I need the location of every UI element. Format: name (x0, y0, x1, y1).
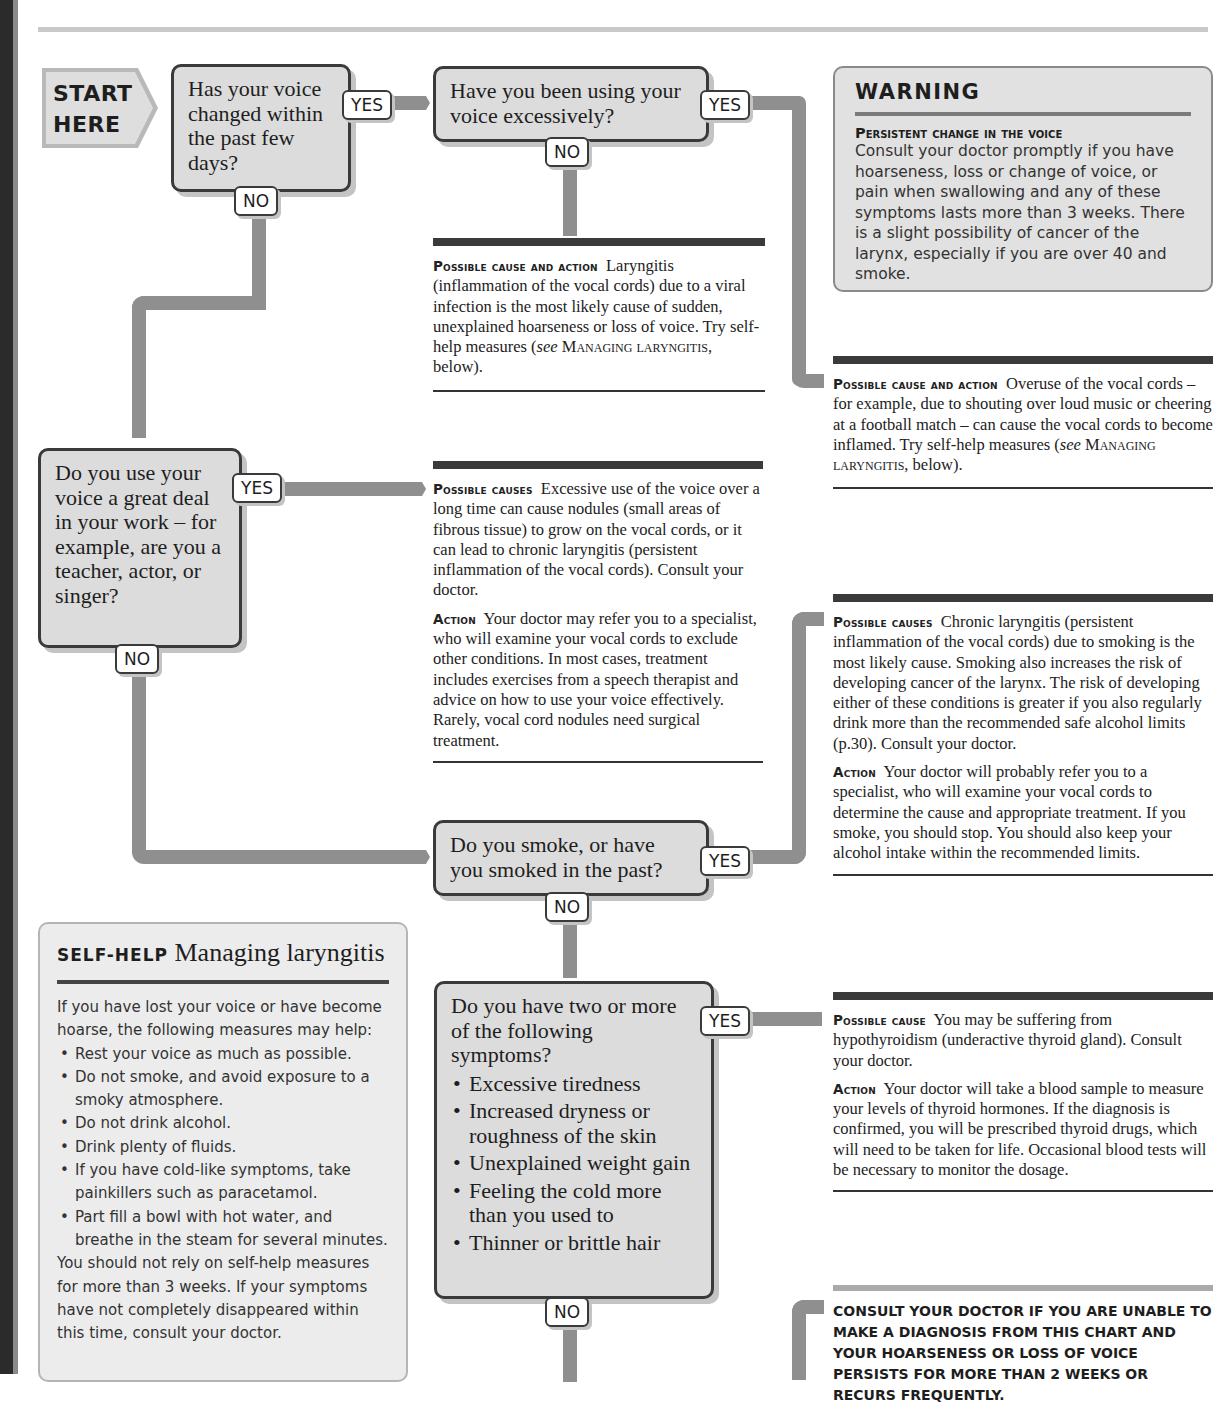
connector-q1-no (252, 212, 266, 308)
warning-divider (855, 112, 1191, 116)
result-label: Possible causes (433, 481, 533, 497)
warning-subtitle: Persistent change in the voice (855, 125, 1191, 141)
result-label: Possible cause (833, 1012, 926, 1028)
selfhelp-item: Do not drink alcohol. (75, 1112, 389, 1135)
result-label: Possible cause and action (433, 258, 598, 274)
question-q4: Do you smoke, or have you smoked in the … (433, 820, 709, 896)
symptom-item: •Feeling the cold more than you used to (469, 1179, 697, 1228)
connector-q2-no (563, 162, 577, 236)
q5-intro: Do you have two or more of the following… (451, 994, 697, 1068)
selfhelp-divider (57, 980, 389, 984)
result-r4: Possible causes Chronic laryngitis (pers… (833, 594, 1213, 876)
question-q3: Do you use your voice a great deal in yo… (38, 448, 242, 648)
action-label: Action (833, 764, 876, 780)
symptom-item: •Increased dryness or roughness of the s… (469, 1099, 697, 1148)
connector-q4-no (563, 918, 577, 978)
result-r3: Possible causes Excessive use of the voi… (433, 461, 763, 763)
page-binding-edge (0, 0, 13, 1374)
connector-q5-no (563, 1322, 577, 1382)
question-q5: Do you have two or more of the following… (434, 981, 714, 1299)
selfhelp-item: Rest your voice as much as possible. (75, 1043, 389, 1066)
selfhelp-item: Drink plenty of fluids. (75, 1136, 389, 1159)
start-here-marker: START HERE (38, 64, 162, 152)
result-r2: Possible cause and action Overuse of the… (833, 356, 1213, 489)
arrowhead-icon (418, 846, 430, 868)
result-label: Possible cause and action (833, 376, 998, 392)
selfhelp-item: Part fill a bowl with hot water, and bre… (75, 1206, 389, 1253)
no-button-q2[interactable]: NO (545, 137, 589, 167)
page-binding-shadow (13, 0, 18, 1374)
selfhelp-item: Do not smoke, and avoid exposure to a sm… (75, 1066, 389, 1113)
link-managing-laryngitis[interactable]: Managing laryngitis (562, 337, 708, 356)
action-label: Action (433, 611, 476, 627)
connector-q3-no (132, 670, 146, 862)
yes-button-q4[interactable]: YES (700, 846, 750, 876)
no-button-q1[interactable]: NO (234, 186, 278, 216)
result-label: Possible causes (833, 614, 933, 630)
arrowhead-icon (418, 92, 430, 114)
warning-box: WARNING Persistent change in the voice C… (833, 66, 1213, 292)
no-button-q4[interactable]: NO (545, 892, 589, 922)
question-q1: Has your voice changed within the past f… (171, 64, 351, 192)
final-advice: CONSULT YOUR DOCTOR IF YOU ARE UNABLE TO… (833, 1285, 1213, 1406)
connector-q5-yes (750, 1012, 822, 1026)
selfhelp-outro: You should not rely on self-help measure… (57, 1252, 389, 1345)
connector-q3-yes (280, 482, 420, 496)
result-r5: Possible cause You may be suffering from… (833, 992, 1213, 1192)
selfhelp-intro: If you have lost your voice or have beco… (57, 996, 389, 1043)
selfhelp-item: If you have cold-like symptoms, take pai… (75, 1159, 389, 1206)
arrowhead-icon (414, 478, 426, 500)
warning-title: WARNING (855, 80, 1191, 104)
symptom-item: •Excessive tiredness (469, 1072, 697, 1097)
selfhelp-box: SELF-HELP Managing laryngitis If you hav… (38, 922, 408, 1382)
yes-button-q5[interactable]: YES (700, 1006, 750, 1036)
warning-body: Consult your doctor promptly if you have… (855, 141, 1191, 285)
result-r1: Possible cause and action Laryngitis (in… (433, 238, 765, 392)
no-button-q5[interactable]: NO (545, 1297, 589, 1327)
start-line1: START (53, 78, 133, 109)
action-label: Action (833, 1081, 876, 1097)
selfhelp-title: SELF-HELP Managing laryngitis (57, 938, 389, 970)
top-divider (38, 27, 1208, 32)
symptom-item: •Thinner or brittle hair (469, 1231, 697, 1256)
symptom-item: •Unexplained weight gain (469, 1151, 697, 1176)
question-q2: Have you been using your voice excessive… (433, 66, 709, 142)
yes-button-q2[interactable]: YES (700, 90, 750, 120)
final-advice-text: CONSULT YOUR DOCTOR IF YOU ARE UNABLE TO… (833, 1301, 1213, 1406)
symptom-list: •Excessive tiredness •Increased dryness … (451, 1072, 697, 1256)
yes-button-q1[interactable]: YES (342, 90, 392, 120)
yes-button-q3[interactable]: YES (232, 473, 282, 503)
start-line2: HERE (53, 109, 133, 140)
selfhelp-list: Rest your voice as much as possible. Do … (57, 1043, 389, 1253)
no-button-q3[interactable]: NO (115, 644, 159, 674)
